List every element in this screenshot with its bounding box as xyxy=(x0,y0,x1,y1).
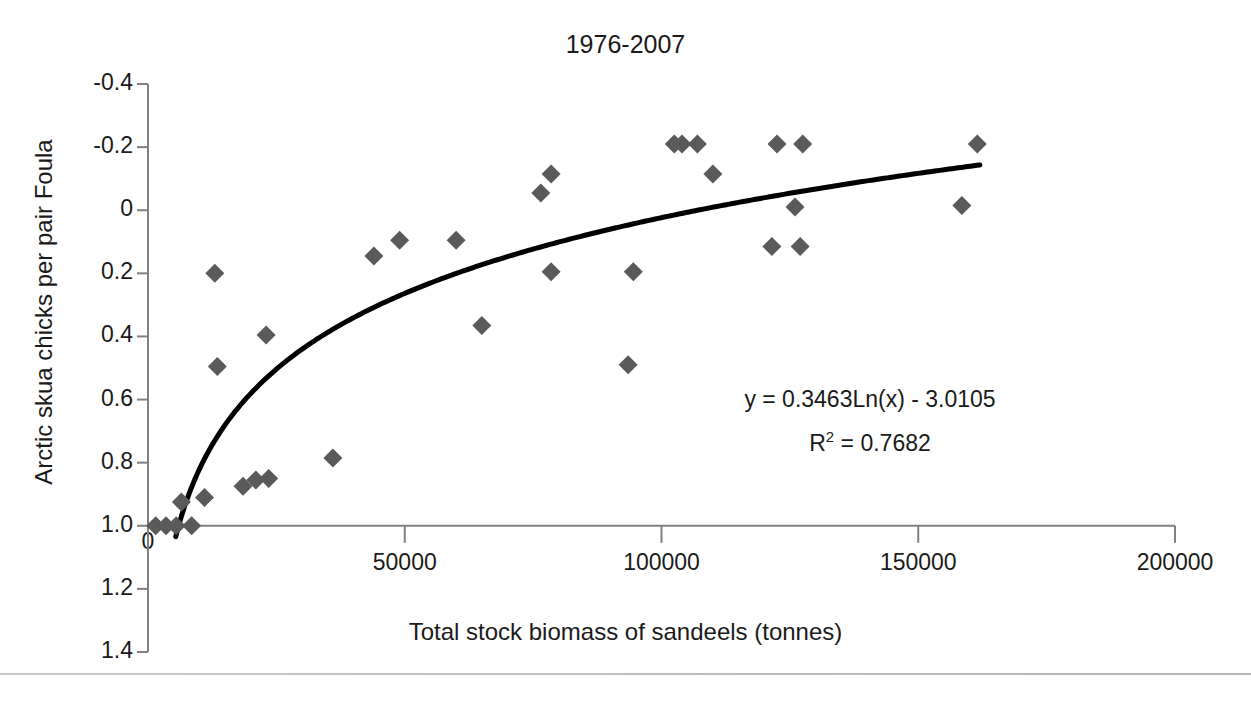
plot-area xyxy=(0,0,1251,702)
data-points-group xyxy=(146,135,987,536)
x-tick-label: 50000 xyxy=(325,549,485,576)
data-point-marker xyxy=(624,262,643,281)
data-point-marker xyxy=(364,247,383,266)
data-point-marker xyxy=(542,164,561,183)
data-point-marker xyxy=(786,198,805,217)
data-point-marker xyxy=(531,183,550,202)
data-point-marker xyxy=(257,325,276,344)
y-tick-label: -0.4 xyxy=(59,69,133,96)
data-point-marker xyxy=(968,135,987,154)
y-tick-label: 1.2 xyxy=(59,574,133,601)
data-point-marker xyxy=(447,231,466,250)
data-point-marker xyxy=(390,231,409,250)
data-point-marker xyxy=(542,262,561,281)
data-point-marker xyxy=(259,469,278,488)
data-point-marker xyxy=(208,357,227,376)
x-tick-label: 150000 xyxy=(838,549,998,576)
data-point-marker xyxy=(323,448,342,467)
figure-scatter-plot: 1976-2007 Arctic skua chicks per pair Fo… xyxy=(0,0,1251,702)
data-point-marker xyxy=(793,135,812,154)
data-point-marker xyxy=(205,264,224,283)
y-tick-label: -0.2 xyxy=(59,132,133,159)
data-point-marker xyxy=(791,237,810,256)
y-tick-label: 0.2 xyxy=(59,258,133,285)
y-tick-label: 0.6 xyxy=(59,385,133,412)
data-point-marker xyxy=(768,135,787,154)
caption-ghost-text xyxy=(0,690,1251,702)
trendline-path xyxy=(176,165,980,537)
data-point-marker xyxy=(762,237,781,256)
data-point-marker xyxy=(688,135,707,154)
y-tick-label: 1.4 xyxy=(59,637,133,664)
y-tick-label: 0 xyxy=(59,195,133,222)
data-point-marker xyxy=(619,355,638,374)
trendline-group xyxy=(176,165,980,537)
y-tick-label: 1.0 xyxy=(59,511,133,538)
caption-divider xyxy=(0,673,1251,675)
x-tick-label: 100000 xyxy=(582,549,742,576)
data-point-marker xyxy=(952,196,971,215)
x-tick-label: 200000 xyxy=(1095,549,1251,576)
data-point-marker xyxy=(195,488,214,507)
data-point-marker xyxy=(703,164,722,183)
y-tick-label: 0.8 xyxy=(59,448,133,475)
y-tick-label: 0.4 xyxy=(59,321,133,348)
data-point-marker xyxy=(182,516,201,535)
data-point-marker xyxy=(472,316,491,335)
